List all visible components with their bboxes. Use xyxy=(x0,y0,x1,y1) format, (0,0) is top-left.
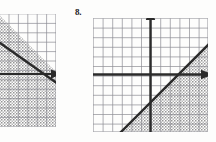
coordinate-plane-right xyxy=(93,18,209,132)
graph-figure-left xyxy=(0,14,56,131)
coordinate-plane-left xyxy=(0,14,56,131)
problem-number-label: 8. xyxy=(75,7,81,17)
y-axis-arrow-up xyxy=(146,18,155,20)
graph-figure-right xyxy=(93,18,209,132)
worksheet-page: 8. xyxy=(0,0,216,142)
